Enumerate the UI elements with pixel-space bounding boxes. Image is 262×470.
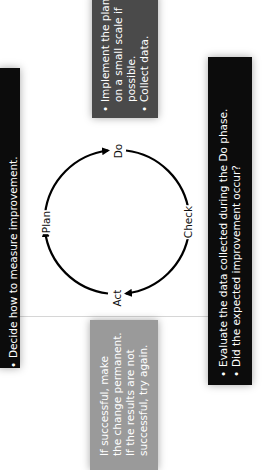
arrow-check-to-act [126,232,189,294]
arrow-do-to-check [126,151,189,214]
arrow-plan-to-do [45,151,108,215]
stage-label-check: Check [182,205,194,239]
stage-label-do: Do [112,143,124,160]
stage-label-act: Act [111,289,123,308]
stage-label-plan: Plan [40,210,52,234]
arrow-act-to-plan [45,231,108,294]
